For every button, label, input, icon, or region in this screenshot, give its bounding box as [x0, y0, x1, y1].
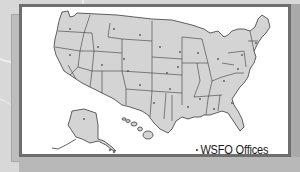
legend-label: WSFO Offices	[200, 143, 268, 157]
legend: WSFO Offices	[196, 143, 268, 157]
us-map	[22, 7, 288, 154]
office-dot-icon	[196, 149, 198, 151]
frame-shadow	[19, 157, 300, 172]
alaska	[68, 109, 116, 151]
frame-shadow	[291, 4, 300, 172]
